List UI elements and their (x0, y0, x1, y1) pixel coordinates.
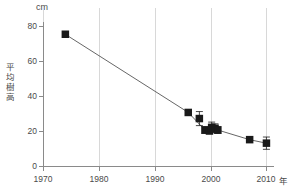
chart-plot-area (0, 0, 303, 190)
data-point-marker (214, 126, 222, 134)
chart-container: cm 平均樹高 年 02040608019701980199020002010 (0, 0, 303, 190)
trend-line (65, 34, 266, 143)
data-point-marker (196, 115, 204, 123)
data-point-marker (263, 139, 271, 147)
data-point-marker (246, 136, 254, 144)
data-point-marker (185, 109, 193, 117)
data-point-marker (62, 31, 70, 39)
